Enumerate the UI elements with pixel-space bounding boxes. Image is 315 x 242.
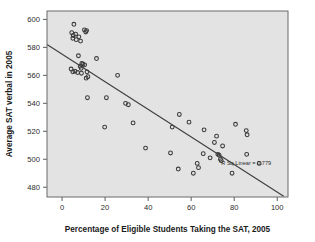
- x-tick-label: 20: [101, 203, 109, 212]
- x-tick-label: 60: [187, 203, 195, 212]
- x-tick-label: 0: [60, 203, 64, 212]
- y-tick-label: 560: [27, 71, 40, 80]
- plot-area-background: [47, 11, 288, 197]
- y-tick-label: 480: [27, 183, 40, 192]
- r-squared-annotation: R Sq Linear = 0.779: [221, 160, 271, 166]
- scatter-plot-figure: 480500520540560580600 020406080100 R Sq …: [0, 0, 315, 242]
- y-tick-label: 600: [27, 15, 40, 24]
- y-tick-label: 580: [27, 43, 40, 52]
- y-tick-label: 500: [27, 155, 40, 164]
- x-axis-title: Percentage of Eligible Students Taking t…: [65, 225, 271, 234]
- x-tick-label: 80: [230, 203, 238, 212]
- y-axis-title: Average SAT verbal in 2005: [5, 50, 14, 157]
- y-tick-label: 520: [27, 127, 40, 136]
- x-tick-label: 40: [144, 203, 152, 212]
- y-tick-label: 540: [27, 99, 40, 108]
- x-tick-label: 100: [271, 203, 284, 212]
